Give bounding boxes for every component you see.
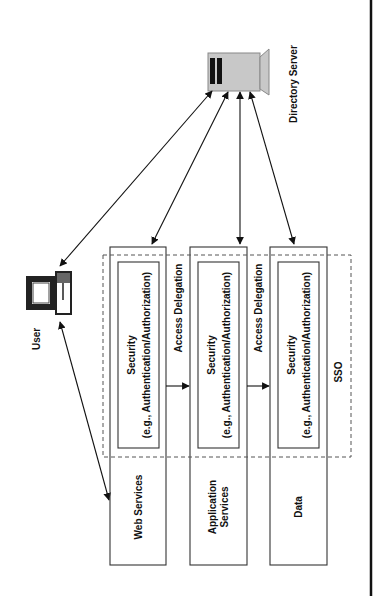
security-label-data: Security — [286, 335, 297, 375]
security-box-web — [118, 262, 159, 448]
access-delegation-label-1: Access Delegation — [173, 264, 184, 353]
user-computer-icon — [26, 272, 71, 314]
directory-server-icon — [208, 49, 269, 95]
security-label-web: Security — [126, 335, 137, 375]
sso-architecture-diagram: Directory Server User Security (e.g., Au… — [0, 0, 380, 599]
arrow-server-web-services — [152, 92, 228, 244]
arrow-user-web-services — [60, 322, 109, 500]
data-label: Data — [293, 496, 304, 518]
security-detail-web: (e.g., Authentication/Authorization) — [141, 272, 152, 438]
access-delegation-label-2: Access Delegation — [253, 264, 264, 353]
arrow-server-user — [60, 91, 212, 266]
security-box-data — [278, 262, 319, 448]
web-services-label: Web Services — [133, 474, 144, 539]
security-detail-application: (e.g., Authentication/Authorization) — [221, 272, 232, 438]
user-label: User — [31, 328, 42, 350]
security-box-application — [198, 262, 239, 448]
directory-server-label: Directory Server — [288, 45, 299, 123]
sso-label: SSO — [333, 361, 344, 382]
application-services-label-line2: Services — [219, 486, 230, 528]
application-services-label-line1: Application — [207, 480, 218, 534]
security-detail-data: (e.g., Authentication/Authorization) — [301, 272, 312, 438]
security-label-application: Security — [206, 335, 217, 375]
